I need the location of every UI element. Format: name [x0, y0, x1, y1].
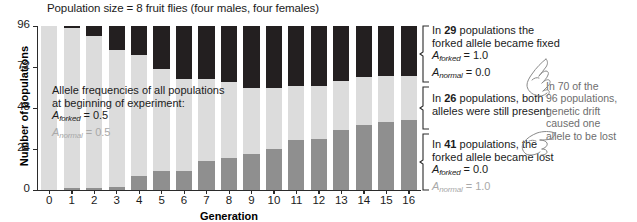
bar-generation-15 [378, 26, 394, 190]
bar-segment-fixed [64, 26, 80, 28]
bar-segment-both [401, 76, 417, 120]
bar-segment-lost [401, 120, 417, 190]
bar-segment-lost [131, 176, 147, 190]
bar-segment-fixed [333, 26, 349, 81]
y-tick-label: 48 [6, 100, 30, 112]
annotation-fixed: In 29 populations the forked allele beca… [432, 24, 582, 82]
bar-segment-both [378, 76, 394, 122]
annotation-lost-count: 41 [444, 138, 456, 150]
bar-segment-lost [109, 187, 125, 190]
allele-value-forked-lost: = 0.0 [463, 163, 488, 175]
y-tick [33, 190, 37, 191]
inplot-note-line2: at beginning of experiment: [52, 97, 224, 110]
pointing-hand-icon [521, 56, 555, 100]
x-tick-label-10: 10 [263, 194, 285, 206]
bar-segment-lost [86, 188, 102, 190]
allele-sub-forked-lost: forked [439, 168, 460, 177]
bar-segment-lost [198, 161, 214, 190]
allele-value-normal-lost: = 1.0 [466, 180, 491, 192]
annotation-lost-normal: Anormal = 1.0 [432, 180, 592, 197]
x-tick-label-9: 9 [240, 194, 262, 206]
y-tick-label: 72 [6, 59, 30, 71]
x-tick-label-5: 5 [151, 194, 173, 206]
x-tick-label-2: 2 [83, 194, 105, 206]
y-tick [33, 149, 37, 150]
bar-generation-11 [288, 26, 304, 190]
bar-segment-lost [243, 154, 259, 190]
bar-segment-fixed [86, 26, 102, 36]
bar-generation-12 [311, 26, 327, 190]
pointing-hand-icon-2 [519, 128, 557, 158]
bar-segment-lost [311, 139, 327, 190]
x-tick-label-15: 15 [375, 194, 397, 206]
x-tick-label-3: 3 [106, 194, 128, 206]
bar-segment-fixed [266, 26, 282, 88]
allele-sub-normal-fixed: normal [439, 71, 462, 80]
bar-segment-fixed [288, 26, 304, 86]
allele-value-forked: = 0.5 [83, 109, 108, 121]
annotation-drift-line3: genetic drift [546, 105, 637, 117]
bar-generation-16 [401, 26, 417, 190]
x-tick-label-12: 12 [308, 194, 330, 206]
annotation-fixed-post: populations the [456, 24, 534, 36]
bar-segment-fixed [109, 26, 125, 50]
annotation-fixed-line1: In 29 populations the [432, 24, 582, 37]
annotation-lost-line2: forked allele became lost [432, 151, 592, 164]
bar-segment-both [266, 88, 282, 150]
annotation-lost-forked: Aforked = 0.0 [432, 163, 592, 180]
bar-generation-9 [243, 26, 259, 190]
annotation-drift-line1: In 70 of the [546, 80, 637, 92]
allele-value-normal-fixed: = 0.0 [466, 66, 491, 78]
figure-drift-chart: Population size = 8 fruit flies (four ma… [0, 0, 637, 222]
y-tick [33, 67, 37, 68]
x-tick-label-13: 13 [330, 194, 352, 206]
annotation-fixed-pre: In [432, 24, 444, 36]
annotation-drift-line4: caused one [546, 117, 637, 129]
allele-value-normal: = 0.5 [86, 126, 111, 138]
annotation-drift: In 70 of the 96 populations, genetic dri… [546, 80, 637, 142]
x-tick-label-14: 14 [353, 194, 375, 206]
x-tick-label-11: 11 [285, 194, 307, 206]
allele-sub-forked-fixed: forked [439, 54, 460, 63]
bar-segment-both [243, 88, 259, 155]
y-tick-label: 24 [6, 141, 30, 153]
brace-fixed [419, 25, 432, 83]
bar-segment-lost [176, 171, 192, 190]
inplot-note-normal: Anormal = 0.5 [52, 126, 224, 143]
bar-segment-lost [64, 188, 80, 190]
allele-value-forked-fixed: = 1.0 [463, 49, 488, 61]
bar-segment-lost [333, 130, 349, 190]
allele-sub-normal-lost: normal [439, 185, 462, 194]
x-tick-label-7: 7 [196, 194, 218, 206]
bar-segment-both [356, 77, 372, 125]
bar-segment-fixed [311, 26, 327, 86]
x-tick-label-4: 4 [128, 194, 150, 206]
annotation-lost: In 41 populations, the forked allele bec… [432, 138, 592, 196]
bar-segment-fixed [221, 26, 237, 82]
annotation-fixed-forked: Aforked = 1.0 [432, 49, 582, 66]
annotation-lost-pre: In [432, 138, 444, 150]
bar-segment-fixed [378, 26, 394, 76]
annotation-both-count: 26 [444, 92, 456, 104]
allele-sub-normal: normal [59, 131, 82, 140]
x-axis-label: Generation [34, 210, 424, 222]
bar-segment-lost [153, 171, 169, 190]
x-tick-label-6: 6 [173, 194, 195, 206]
annotation-drift-line5: allele to be lost [546, 130, 637, 142]
bar-segment-fixed [176, 26, 192, 79]
x-tick-label-1: 1 [61, 194, 83, 206]
x-tick-label-16: 16 [398, 194, 420, 206]
annotation-fixed-count: 29 [444, 24, 456, 36]
chart-title: Population size = 8 fruit flies (four ma… [47, 2, 319, 14]
bar-segment-lost [356, 125, 372, 190]
bar-generation-14 [356, 26, 372, 190]
y-tick-label: 96 [6, 18, 30, 30]
allele-sub-forked: forked [59, 114, 80, 123]
x-tick-label-8: 8 [218, 194, 240, 206]
bar-segment-fixed [131, 26, 147, 55]
bar-generation-13 [333, 26, 349, 190]
inplot-note-line1: Allele frequencies of all populations [52, 84, 224, 97]
bar-segment-lost [266, 149, 282, 190]
bar-segment-both [333, 81, 349, 131]
x-tick-label-0: 0 [38, 194, 60, 206]
